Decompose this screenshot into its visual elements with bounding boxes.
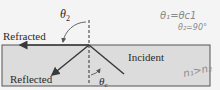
reflected-label: Reflected	[10, 73, 53, 85]
incident-label: Incident	[128, 51, 164, 63]
theta2-arc	[63, 22, 86, 42]
theta2-label: θ2	[60, 7, 70, 23]
tir-diagram: Refracted Reflected Incident θ2 θc θ₁=θc…	[0, 0, 220, 90]
handwritten-theta2: θ₂=90°	[178, 23, 207, 32]
handwritten-theta1: θ₁=θc1	[160, 10, 196, 21]
refracted-label: Refracted	[3, 30, 46, 42]
